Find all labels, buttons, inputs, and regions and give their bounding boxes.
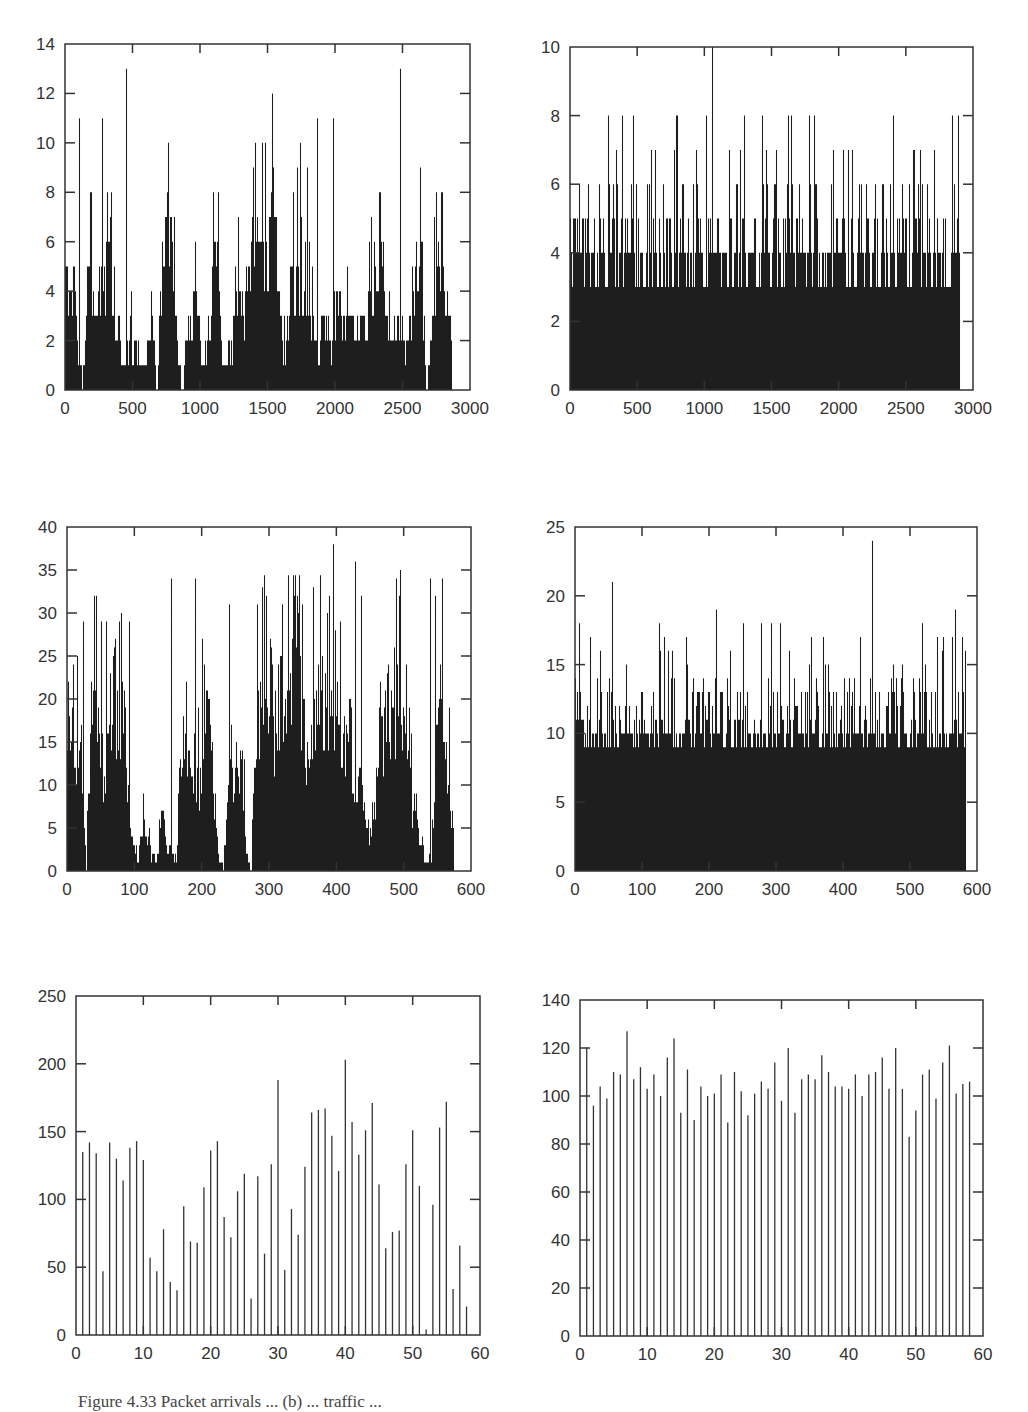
x-tick-label: 500 [623, 399, 651, 418]
bars [587, 1031, 970, 1336]
x-tick-label: 0 [62, 880, 71, 899]
x-tick-label: 600 [963, 880, 991, 899]
y-tick-label: 8 [551, 107, 560, 126]
y-tick-label: 40 [38, 518, 57, 537]
y-tick-label: 15 [38, 733, 57, 752]
y-tick-label: 80 [551, 1135, 570, 1154]
y-tick-label: 0 [551, 381, 560, 400]
y-tick-label: 35 [38, 561, 57, 580]
y-tick-label: 60 [551, 1183, 570, 1202]
x-tick-label: 30 [772, 1345, 791, 1364]
x-tick-label: 0 [71, 1344, 80, 1363]
bars [68, 544, 454, 871]
x-tick-label: 1500 [753, 399, 791, 418]
x-tick-label: 100 [120, 880, 148, 899]
x-tick-label: 300 [762, 880, 790, 899]
y-tick-label: 25 [38, 647, 57, 666]
x-tick-label: 50 [906, 1345, 925, 1364]
y-tick-label: 5 [556, 793, 565, 812]
x-tick-label: 0 [565, 399, 574, 418]
x-tick-label: 2500 [384, 399, 422, 418]
histogram [66, 69, 452, 390]
y-tick-label: 6 [46, 233, 55, 252]
x-tick-label: 1000 [181, 399, 219, 418]
chart-middle-right: 01002003004005006000510152025 [546, 518, 991, 899]
y-tick-label: 25 [546, 518, 565, 537]
x-tick-label: 2000 [820, 399, 858, 418]
y-tick-label: 10 [541, 38, 560, 57]
x-tick-label: 200 [695, 880, 723, 899]
y-tick-label: 140 [542, 991, 570, 1010]
y-tick-label: 20 [38, 690, 57, 709]
y-tick-label: 4 [551, 244, 560, 263]
x-tick-label: 60 [471, 1344, 490, 1363]
y-tick-label: 20 [551, 1279, 570, 1298]
chart-top-left: 05001000150020002500300002468101214 [36, 35, 489, 418]
x-tick-label: 60 [974, 1345, 993, 1364]
y-tick-label: 10 [546, 724, 565, 743]
y-tick-label: 8 [46, 183, 55, 202]
y-tick-label: 6 [551, 175, 560, 194]
x-tick-label: 1000 [685, 399, 723, 418]
x-tick-label: 400 [829, 880, 857, 899]
y-tick-label: 30 [38, 604, 57, 623]
y-tick-label: 40 [551, 1231, 570, 1250]
y-tick-label: 250 [38, 987, 66, 1006]
bars [576, 541, 966, 871]
histogram [576, 541, 966, 871]
x-tick-label: 100 [628, 880, 656, 899]
x-tick-label: 40 [336, 1344, 355, 1363]
histogram [68, 544, 454, 871]
x-tick-label: 500 [896, 880, 924, 899]
x-tick-label: 20 [201, 1344, 220, 1363]
y-tick-label: 120 [542, 1039, 570, 1058]
x-tick-label: 2500 [887, 399, 925, 418]
y-tick-label: 5 [48, 819, 57, 838]
y-tick-label: 150 [38, 1123, 66, 1142]
x-tick-label: 500 [389, 880, 417, 899]
x-tick-label: 0 [570, 880, 579, 899]
x-tick-label: 10 [134, 1344, 153, 1363]
y-tick-label: 0 [57, 1326, 66, 1345]
y-tick-label: 0 [556, 862, 565, 881]
y-tick-label: 10 [36, 134, 55, 153]
x-tick-label: 30 [269, 1344, 288, 1363]
x-tick-label: 3000 [451, 399, 489, 418]
x-tick-label: 10 [638, 1345, 657, 1364]
x-tick-label: 0 [60, 399, 69, 418]
y-tick-label: 50 [47, 1258, 66, 1277]
x-tick-label: 500 [118, 399, 146, 418]
figure-caption: Figure 4.33 Packet arrivals ... (b) ... … [78, 1392, 382, 1412]
x-tick-label: 50 [403, 1344, 422, 1363]
y-tick-label: 15 [546, 656, 565, 675]
x-tick-label: 300 [255, 880, 283, 899]
y-tick-label: 2 [46, 332, 55, 351]
y-tick-label: 10 [38, 776, 57, 795]
chart-middle-left: 01002003004005006000510152025303540 [38, 518, 485, 899]
x-tick-label: 200 [187, 880, 215, 899]
chart-bottom-right: 0102030405060020406080100120140 [542, 991, 993, 1364]
chart-bottom-left: 0102030405060050100150200250 [38, 987, 490, 1363]
y-tick-label: 200 [38, 1055, 66, 1074]
y-tick-label: 0 [46, 381, 55, 400]
x-tick-label: 40 [839, 1345, 858, 1364]
x-tick-label: 400 [322, 880, 350, 899]
x-tick-label: 20 [705, 1345, 724, 1364]
y-tick-label: 2 [551, 312, 560, 331]
y-tick-label: 14 [36, 35, 55, 54]
y-tick-label: 100 [38, 1190, 66, 1209]
x-tick-label: 600 [457, 880, 485, 899]
y-tick-label: 0 [561, 1327, 570, 1346]
y-tick-label: 100 [542, 1087, 570, 1106]
x-tick-label: 3000 [954, 399, 992, 418]
bars [571, 47, 960, 390]
bars [83, 1060, 467, 1335]
x-tick-label: 1500 [249, 399, 287, 418]
x-tick-label: 0 [575, 1345, 584, 1364]
chart-top-right: 0500100015002000250030000246810 [541, 38, 992, 418]
y-tick-label: 20 [546, 587, 565, 606]
y-tick-label: 4 [46, 282, 55, 301]
x-tick-label: 2000 [316, 399, 354, 418]
